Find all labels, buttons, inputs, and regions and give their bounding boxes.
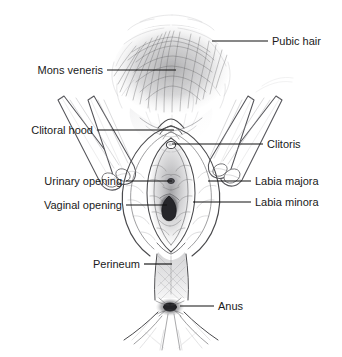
- label-anus: Anus: [218, 300, 244, 312]
- anatomy-figure: Pubic hair Mons veneris Clitoral hood Cl…: [0, 0, 342, 357]
- label-labia-majora: Labia majora: [255, 175, 319, 187]
- label-vaginal-opening: Vaginal opening: [44, 199, 122, 211]
- label-urinary-opening: Urinary opening: [44, 175, 122, 187]
- anatomy-illustration: Pubic hair Mons veneris Clitoral hood Cl…: [0, 0, 342, 357]
- label-mons-veneris: Mons veneris: [38, 64, 104, 76]
- label-pubic-hair: Pubic hair: [272, 35, 321, 47]
- label-clitoral-hood: Clitoral hood: [31, 124, 93, 136]
- label-perineum: Perineum: [93, 258, 140, 270]
- label-labia-minora: Labia minora: [255, 196, 319, 208]
- label-clitoris: Clitoris: [267, 138, 301, 150]
- anus-region: [156, 298, 184, 316]
